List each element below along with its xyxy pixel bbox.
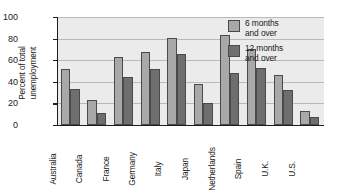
- bar: [114, 57, 124, 125]
- bar: [300, 111, 310, 125]
- bar: [87, 100, 97, 125]
- bar: [283, 90, 293, 125]
- bar: [274, 75, 284, 125]
- bar: [256, 68, 266, 125]
- y-tick-label-20: 20: [0, 99, 18, 108]
- bar: [310, 117, 320, 125]
- bar-group: [194, 17, 213, 125]
- bar: [203, 103, 213, 125]
- bar-group: [87, 17, 106, 125]
- y-tick-label-100: 100: [0, 13, 18, 22]
- x-axis-label: U.S.: [297, 127, 323, 191]
- bar: [123, 77, 133, 125]
- y-tick-label-0: 0: [0, 121, 18, 130]
- y-tick-label-60: 60: [0, 56, 18, 65]
- legend-swatch-6-months: [228, 20, 240, 32]
- bar-group: [141, 17, 160, 125]
- bar-group: [114, 17, 133, 125]
- legend-label-6-months: 6 months and over: [245, 19, 279, 38]
- bar: [194, 84, 204, 125]
- bar: [141, 52, 151, 125]
- legend-label-12-months: 12 months and over: [245, 44, 283, 63]
- y-tick-label-80: 80: [0, 34, 18, 43]
- x-axis-label: Germany: [137, 127, 163, 191]
- bar-group: [61, 17, 80, 125]
- y-tick-label-40: 40: [0, 77, 18, 86]
- legend-item-6-months: 6 months and over: [228, 19, 328, 38]
- bar: [97, 113, 107, 125]
- legend: 6 months and over 12 months and over: [228, 19, 328, 69]
- x-axis-labels: AustraliaCanadaFranceGermanyItalyJapanNe…: [57, 127, 323, 191]
- bar: [177, 54, 187, 125]
- bar: [61, 69, 71, 125]
- legend-swatch-12-months: [228, 45, 240, 57]
- bar-group: [167, 17, 186, 125]
- bar-chart: Percent of total unemployment 100 80 60 …: [0, 0, 344, 192]
- bar: [230, 73, 240, 125]
- bar: [150, 69, 160, 125]
- bar: [167, 38, 177, 125]
- y-axis-title: Percent of total unemployment: [18, 30, 44, 116]
- legend-item-12-months: 12 months and over: [228, 44, 328, 63]
- bar: [70, 89, 80, 125]
